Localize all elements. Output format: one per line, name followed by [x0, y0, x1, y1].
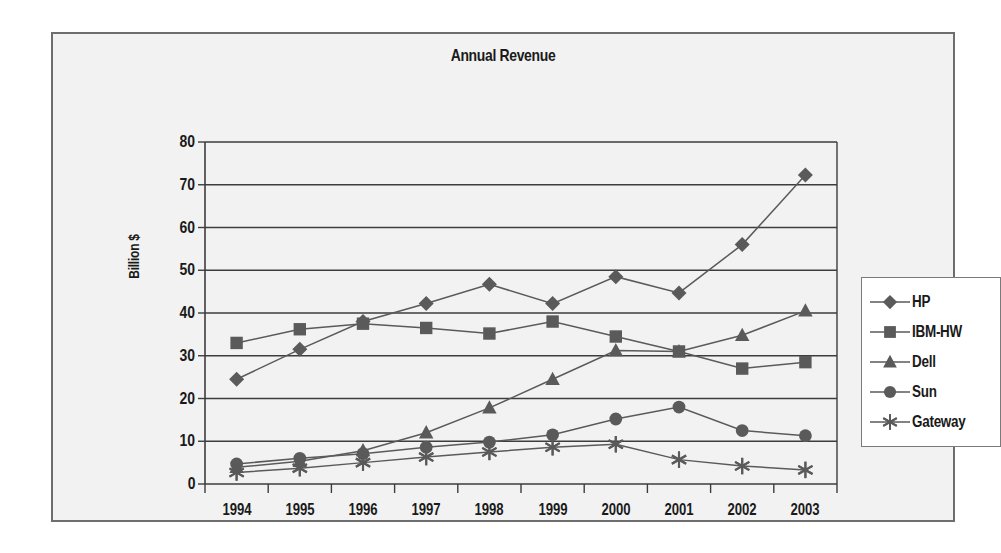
series-markers-dell: [229, 303, 812, 473]
x-tick-label: 1998: [475, 501, 504, 519]
y-axis-title: Billion $: [125, 201, 142, 313]
y-tick-label: 50: [179, 260, 195, 280]
circle-marker: [609, 413, 622, 426]
series-markers-sun: [230, 401, 812, 471]
square-marker: [884, 326, 896, 338]
legend-label: Sun: [912, 383, 937, 401]
series-markers-hp: [229, 167, 813, 386]
legend-item-sun[interactable]: Sun: [868, 377, 992, 407]
square-marker: [736, 362, 748, 374]
triangle-marker: [883, 355, 897, 368]
y-tick-label: 70: [179, 175, 195, 195]
series-line-ibm-hw: [237, 322, 806, 369]
circle-marker: [868, 381, 912, 403]
circle-marker: [673, 401, 686, 414]
x-tick-label: 2000: [601, 501, 630, 519]
square-marker: [230, 337, 242, 349]
x-tick-label: 2001: [664, 501, 693, 519]
diamond-marker: [229, 372, 244, 387]
legend-label: Gateway: [912, 413, 966, 431]
x-tick-label: 1999: [538, 501, 567, 519]
series-markers-ibm-hw: [230, 315, 811, 374]
chart-frame: Annual Revenue Billion $ 010203040506070…: [51, 32, 955, 522]
x-tick-label: 1997: [412, 501, 441, 519]
square-marker: [294, 323, 306, 335]
diamond-marker: [292, 342, 307, 357]
plot-area: 01020304050607080 1994199519961997199819…: [205, 142, 837, 484]
series-line-sun: [237, 407, 806, 464]
y-tick-label: 60: [179, 218, 195, 238]
y-tick-label: 40: [179, 303, 195, 323]
triangle-marker: [868, 351, 912, 373]
diamond-marker: [672, 285, 687, 300]
diamond-marker: [868, 291, 912, 313]
square-marker: [610, 330, 622, 342]
chart-title: Annual Revenue: [134, 46, 872, 66]
square-marker: [420, 322, 432, 334]
square-marker: [546, 315, 558, 327]
series-line-hp: [237, 175, 806, 379]
diamond-marker: [545, 296, 560, 311]
square-marker: [799, 356, 811, 368]
triangle-marker: [419, 425, 433, 438]
x-tick-label: 1996: [348, 501, 377, 519]
legend-label: IBM-HW: [912, 323, 962, 341]
triangle-marker: [545, 372, 559, 385]
square-marker: [868, 321, 912, 343]
plot-canvas: [205, 142, 837, 484]
legend-item-hp[interactable]: HP: [868, 287, 992, 317]
y-tick-label: 20: [179, 389, 195, 409]
legend-label: HP: [912, 293, 930, 311]
legend-item-dell[interactable]: Dell: [868, 347, 992, 377]
x-tick-label: 1994: [222, 501, 251, 519]
triangle-marker: [482, 400, 496, 413]
legend-item-gateway[interactable]: Gateway: [868, 407, 992, 437]
triangle-marker: [735, 328, 749, 341]
diamond-marker: [419, 296, 434, 311]
y-tick-label: 0: [187, 474, 195, 494]
diamond-marker: [482, 277, 497, 292]
x-tick-label: 2002: [728, 501, 757, 519]
circle-marker: [799, 429, 812, 442]
series-line-dell: [237, 311, 806, 467]
y-tick-label: 30: [179, 346, 195, 366]
asterisk-marker: [868, 411, 912, 433]
diamond-marker: [883, 295, 897, 309]
chart-legend: HPIBM-HWDellSunGateway: [861, 277, 1001, 447]
circle-marker: [884, 386, 896, 398]
x-tick-label: 2003: [791, 501, 820, 519]
legend-label: Dell: [912, 353, 936, 371]
square-marker: [357, 317, 369, 329]
y-tick-label: 80: [179, 132, 195, 152]
diamond-marker: [608, 269, 623, 284]
y-tick-label: 10: [179, 431, 195, 451]
circle-marker: [736, 424, 749, 437]
square-marker: [483, 327, 495, 339]
x-tick-label: 1995: [285, 501, 314, 519]
triangle-marker: [609, 343, 623, 356]
triangle-marker: [798, 303, 812, 316]
legend-item-ibm-hw[interactable]: IBM-HW: [868, 317, 992, 347]
